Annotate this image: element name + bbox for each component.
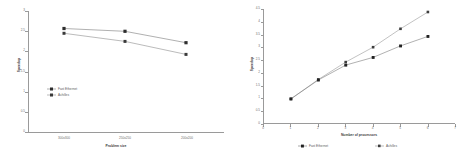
series-marker [344,61,347,64]
series-marker [399,28,402,31]
legend-label-fast-ethernet: Fast Ethernet [309,145,328,149]
series-marker [372,56,375,59]
series-marker [63,32,66,35]
series-marker [123,30,126,33]
series-plot-right [234,0,468,163]
series-marker [344,64,347,67]
chart-panel-right: Speedup 4.5 4 3.5 3 2.5 2 1.5 1 0.5 0 0 [234,0,468,163]
series-marker [185,53,188,56]
series-marker [427,11,430,14]
series-marker [290,98,293,101]
series-marker [427,35,430,38]
series-plot-left [0,0,234,163]
legend-label-achilles: Achilles [58,94,69,98]
legend-label-fast-ethernet: Fast Ethernet [58,88,77,92]
chart-panel-left: Speedup 3 2.5 2 1.5 1 0.5 0 300x300 250x… [0,0,234,163]
legend-label-achilles: Achilles [386,145,397,149]
series-line-achilles [291,12,428,99]
series-marker [399,45,402,48]
series-marker [317,79,320,82]
series-line-achilles [64,33,186,54]
series-marker [372,46,375,49]
series-marker [62,27,65,30]
series-marker [124,40,127,43]
series-line-fast-ethernet [291,36,428,99]
figure-row: Speedup 3 2.5 2 1.5 1 0.5 0 300x300 250x… [0,0,468,163]
series-marker [184,41,187,44]
